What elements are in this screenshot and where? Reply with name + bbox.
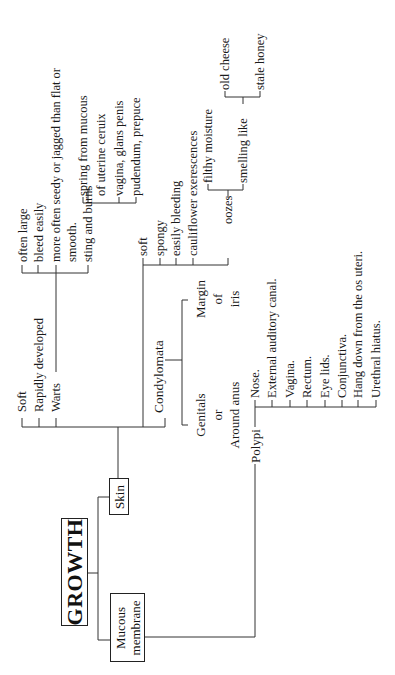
condylomata-item-cauliflower: cauliflower exerescences: [186, 131, 200, 256]
growth-root-box: GROWTH: [61, 518, 88, 626]
polypi-item-conjunctiva: Conjunctiva.: [335, 334, 349, 398]
mucous-membrane-label: Mucousmembrane: [113, 600, 143, 655]
skin-item-soft: Soft: [15, 391, 29, 412]
sting-item-spring-from-mucous: spring from mucous: [76, 95, 90, 196]
polypi-item-eye-lids: Eye lids.: [318, 354, 332, 398]
warts-item-often-large: often large: [16, 208, 30, 262]
polypi-item-rectum: Rectum.: [300, 356, 314, 398]
condylomata-item-oozes: oozes: [221, 196, 235, 224]
mucous-membrane-box: Mucousmembrane: [110, 593, 145, 662]
condylomata-item-spongy: spongy: [153, 220, 167, 256]
smell-item-stale-honey: stale honey: [253, 33, 267, 90]
sting-item-pudendum-prepuce: pudendum, prepuce: [129, 97, 143, 196]
condylomata-item-soft: soft: [136, 237, 150, 256]
polypi-label: Polypi: [249, 429, 263, 463]
skin-item-rapidly-developed: Rapidly developed: [32, 318, 46, 412]
growth-diagram: GROWTH Skin Mucousmembrane Soft Rapidly …: [0, 0, 395, 675]
skin-item-condylomata: Condylomata: [152, 340, 166, 413]
condylomata-item-easily-bleeding: easily bleeding: [169, 181, 183, 256]
condylomata-location-iris: Margin of iris: [192, 278, 243, 320]
polypi-item-urethral-hiatus: Urethral hiatus.: [369, 320, 383, 398]
smell-item-old-cheese: old cheese: [218, 38, 232, 90]
skin-item-warts: Warts: [49, 383, 63, 412]
polypi-item-external-auditory-canal: External auditory canal.: [265, 278, 279, 398]
oozes-item-filthy-moisture: filthy moisture: [201, 109, 215, 183]
warts-item-sting-and-burns: sting and burns: [81, 186, 95, 262]
polypi-item-hang-down-os-uteri: Hang down from the os uteri.: [351, 251, 365, 398]
warts-item-smooth: smooth.: [65, 222, 79, 262]
warts-item-more-often-seedy: more often seedy or jagged than flat or: [49, 68, 63, 262]
skin-box: Skin: [109, 478, 129, 515]
sting-item-of-uterine-ceruix: of uterine ceruix: [94, 113, 108, 196]
oozes-item-smelling-like: smelling like: [236, 118, 250, 183]
sting-item-vagina-glans-penis: vagina, glans penis: [112, 101, 126, 196]
warts-item-bleed-easily: bleed easily: [32, 203, 46, 262]
polypi-item-vagina: Vagina.: [283, 360, 297, 398]
skin-label: Skin: [112, 485, 127, 509]
polypi-item-nose: Nose.: [248, 369, 262, 398]
growth-title: GROWTH: [62, 519, 88, 626]
condylomata-location-genitals: Genitals or Around anus: [192, 375, 243, 455]
